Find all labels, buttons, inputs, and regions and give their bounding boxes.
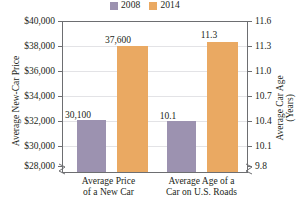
left-tick	[58, 46, 62, 47]
right-tick	[248, 46, 252, 47]
bar-2014-price	[117, 46, 148, 172]
legend-label-2008: 2008	[121, 1, 140, 11]
right-axis-title-line2: (Years)	[286, 48, 296, 168]
bar-chart: 2008 2014 Average New-Car Price Average …	[0, 0, 302, 208]
left-tick-label: $30,000	[0, 142, 55, 152]
left-tick	[58, 146, 62, 147]
right-tick-label: 10.1	[255, 142, 272, 152]
category-label-price: Average Price of a New Car	[62, 176, 155, 198]
right-tick-label: 10.4	[255, 117, 272, 127]
chart-legend: 2008 2014	[110, 1, 180, 11]
legend-swatch-2008	[110, 2, 118, 10]
category-labels: Average Price of a New Car Average Age o…	[62, 176, 248, 198]
left-tick-label: $40,000	[0, 17, 55, 27]
bar-2008-age	[167, 121, 196, 172]
legend-swatch-2014	[149, 2, 157, 10]
left-tick	[58, 71, 62, 72]
right-axis-title-line1: Average Car Age	[275, 75, 285, 140]
category-label-price-line2: of a New Car	[62, 187, 155, 198]
right-tick	[248, 96, 252, 97]
bar-2014-age	[207, 42, 238, 172]
left-tick	[58, 96, 62, 97]
category-label-age-line1: Average Age of a	[168, 176, 234, 186]
right-tick-label: 11.3	[255, 42, 271, 52]
right-tick	[248, 21, 252, 22]
left-tick-label: $38,000	[0, 42, 55, 52]
category-label-age: Average Age of a Car on U.S. Roads	[155, 176, 248, 198]
left-tick-label: $28,000	[0, 162, 55, 172]
right-tick	[248, 121, 252, 122]
plot-area	[62, 21, 248, 173]
right-tick-label: 11.6	[255, 17, 271, 27]
right-tick-label: 9.8	[255, 162, 267, 172]
left-tick-label: $36,000	[0, 67, 55, 77]
left-tick-label: $34,000	[0, 92, 55, 102]
left-tick	[58, 121, 62, 122]
right-tick-label: 10.7	[255, 92, 272, 102]
bar-2008-price	[77, 120, 106, 172]
value-label-2014-price: 37,600	[96, 36, 140, 46]
right-tick-label: 11.0	[255, 67, 271, 77]
category-label-price-line1: Average Price	[82, 176, 135, 186]
right-axis-break-icon	[243, 163, 256, 177]
value-label-2008-age: 10.1	[148, 112, 188, 122]
right-tick	[248, 146, 252, 147]
value-label-2014-age: 11.3	[189, 31, 229, 41]
left-tick	[58, 21, 62, 22]
right-tick	[248, 71, 252, 72]
left-axis-break-icon	[56, 163, 69, 177]
category-label-age-line2: Car on U.S. Roads	[155, 187, 248, 198]
legend-item-2008: 2008	[110, 1, 140, 11]
legend-label-2014: 2014	[160, 1, 179, 11]
legend-item-2014: 2014	[149, 1, 179, 11]
left-tick-label: $32,000	[0, 117, 55, 127]
value-label-2008-price: 30,100	[56, 111, 100, 121]
right-axis-title: Average Car Age (Years)	[276, 48, 296, 168]
